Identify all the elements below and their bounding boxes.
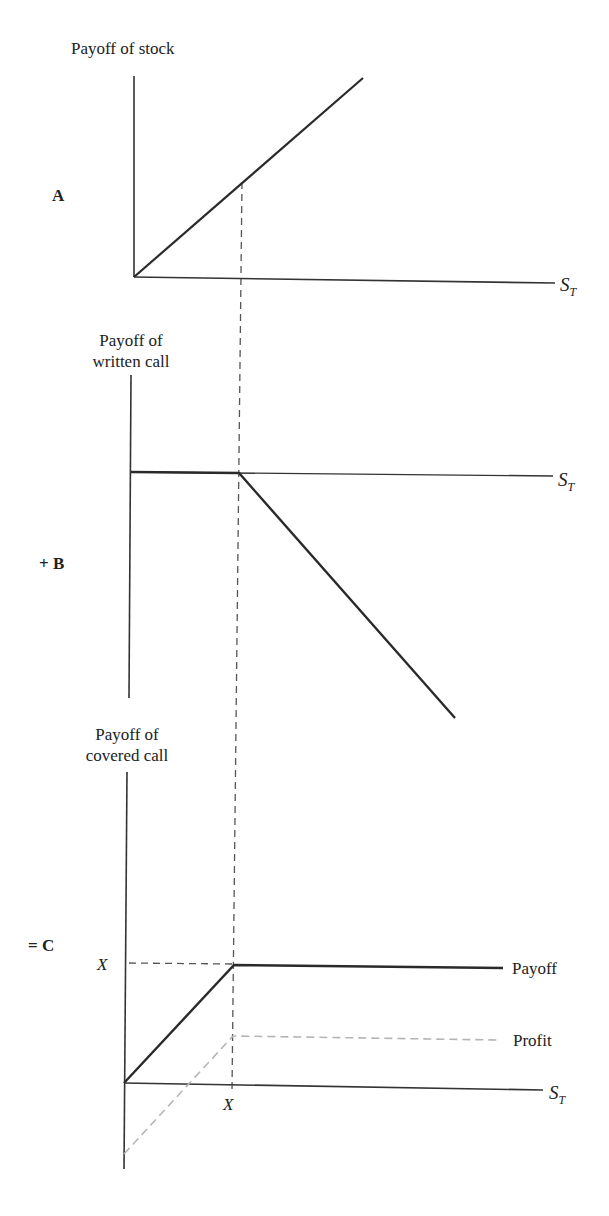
panel-b-x-axis-label: ST: [558, 469, 576, 494]
panel-a-y-title: Payoff of stock: [71, 39, 175, 58]
panel-c-y-title-line2: covered call: [86, 746, 169, 765]
covered-call-figure: Payoff of stock A ST Payoff of written c…: [0, 0, 609, 1216]
panel-c-x-tick-x: X: [222, 1095, 234, 1114]
legend-profit: Profit: [513, 1031, 552, 1050]
panel-c-label: = C: [28, 936, 54, 955]
panel-c-y-tick-x: X: [96, 955, 108, 974]
panel-a-x-axis: [134, 277, 555, 283]
panel-c-x-axis-label: ST: [549, 1082, 567, 1107]
panel-c-x-level-dashed: [129, 963, 233, 964]
stock-payoff-line: [134, 78, 363, 277]
panel-a: Payoff of stock A ST: [52, 39, 578, 299]
panel-c-y-title-line1: Payoff of: [95, 725, 159, 744]
covered-call-payoff-line: [124, 965, 503, 1083]
written-call-payoff-line: [131, 472, 455, 718]
legend-payoff: Payoff: [512, 959, 557, 978]
panel-c: Payoff of covered call = C ST X X Payoff…: [28, 725, 567, 1169]
panel-a-label: A: [52, 186, 65, 205]
strike-dashed-vertical: [232, 182, 242, 1090]
panel-b: Payoff of written call + B ST: [39, 331, 576, 718]
panel-a-x-axis-label: ST: [560, 274, 578, 299]
panel-b-y-title-line2: written call: [93, 352, 170, 371]
covered-call-profit-line: [124, 1036, 497, 1154]
panel-b-y-axis: [129, 375, 131, 698]
panel-b-label: + B: [39, 554, 64, 573]
panel-b-y-title-line1: Payoff of: [99, 331, 163, 350]
panel-c-y-axis: [124, 772, 127, 1169]
